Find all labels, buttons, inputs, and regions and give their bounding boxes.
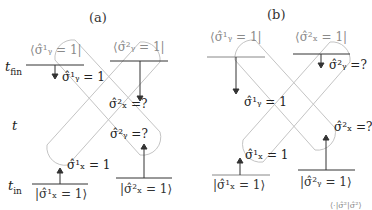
bra-b-2: ⟨σ̂²ₓ = 1| — [295, 30, 347, 44]
obs-a-2: σ̂²ₓ =? — [109, 97, 147, 111]
obs-b-2: σ̂¹ᵧ = 1 — [244, 95, 287, 109]
obs-a-1: σ̂¹ᵧ = 1 — [62, 70, 105, 84]
t-in-subscript: in — [13, 186, 22, 196]
bra-b-1: ⟨σ̂¹ᵧ = 1| — [210, 30, 262, 44]
obs-b-1: σ̂²ᵧ =? — [329, 58, 367, 72]
ket-a-2: |σ̂²ₓ = 1⟩ — [120, 182, 172, 196]
bra-a-2: ⟨σ̂²ᵧ = 1| — [113, 40, 165, 54]
t-fin-label: tfin — [5, 59, 22, 77]
bra-a-1: ⟨σ̂¹ᵧ = 1| — [30, 43, 82, 57]
obs-b-4: σ̂¹ₓ = 1 — [245, 148, 288, 162]
panel-label-b: (b) — [267, 7, 285, 22]
obs-a-3: σ̂²ᵧ =? — [110, 127, 148, 141]
obs-b-3: σ̂²ₓ =? — [334, 120, 372, 134]
footer-fragment: ⟨·|σ̂²|σ̂²⟩ — [330, 201, 362, 210]
t-label: t — [12, 118, 17, 133]
t-in-label: tin — [8, 178, 22, 196]
ket-b-1: |σ̂¹ₓ = 1⟩ — [213, 178, 265, 192]
obs-a-4: σ̂¹ₓ = 1 — [67, 158, 110, 172]
panel-label-a: (a) — [89, 10, 107, 25]
ket-b-2: |σ̂²ᵧ = 1⟩ — [300, 175, 352, 189]
ket-a-1: |σ̂¹ₓ = 1⟩ — [35, 187, 87, 201]
t-fin-subscript: fin — [10, 67, 22, 77]
